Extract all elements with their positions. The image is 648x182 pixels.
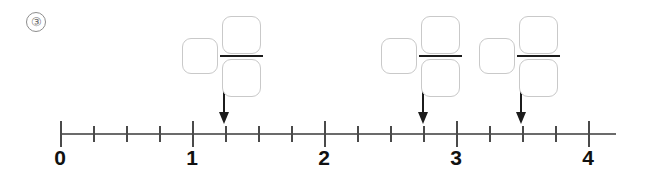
minor-tick xyxy=(522,126,524,142)
worksheet-canvas: ③ 01234 xyxy=(0,0,648,182)
minor-tick xyxy=(93,126,95,142)
minor-tick xyxy=(225,126,227,142)
fraction-bar xyxy=(517,55,560,57)
minor-tick xyxy=(291,126,293,142)
numerator-input[interactable] xyxy=(519,16,558,54)
denominator-input[interactable] xyxy=(421,59,460,97)
number-line-axis xyxy=(60,133,616,135)
tick-label-1: 1 xyxy=(172,146,212,170)
minor-tick xyxy=(423,126,425,142)
numerator-input[interactable] xyxy=(421,16,460,54)
arrow-head-icon xyxy=(418,112,428,124)
minor-tick xyxy=(258,126,260,142)
arrow-head-icon xyxy=(516,112,526,124)
whole-number-input[interactable] xyxy=(182,38,218,74)
tick-label-4: 4 xyxy=(568,146,608,170)
minor-tick xyxy=(390,126,392,142)
minor-tick xyxy=(357,126,359,142)
minor-tick xyxy=(126,126,128,142)
whole-number-input[interactable] xyxy=(381,38,417,74)
numerator-input[interactable] xyxy=(222,16,261,54)
major-tick xyxy=(324,121,326,147)
whole-number-input[interactable] xyxy=(479,38,515,74)
denominator-input[interactable] xyxy=(519,59,558,97)
tick-label-3: 3 xyxy=(436,146,476,170)
major-tick xyxy=(588,121,590,147)
minor-tick xyxy=(555,126,557,142)
major-tick xyxy=(60,121,62,147)
tick-label-2: 2 xyxy=(304,146,344,170)
denominator-input[interactable] xyxy=(222,59,261,97)
minor-tick xyxy=(489,126,491,142)
arrow-head-icon xyxy=(219,112,229,124)
tick-label-0: 0 xyxy=(40,146,80,170)
fraction-bar xyxy=(419,55,462,57)
fraction-bar xyxy=(220,55,263,57)
major-tick xyxy=(456,121,458,147)
minor-tick xyxy=(159,126,161,142)
major-tick xyxy=(192,121,194,147)
